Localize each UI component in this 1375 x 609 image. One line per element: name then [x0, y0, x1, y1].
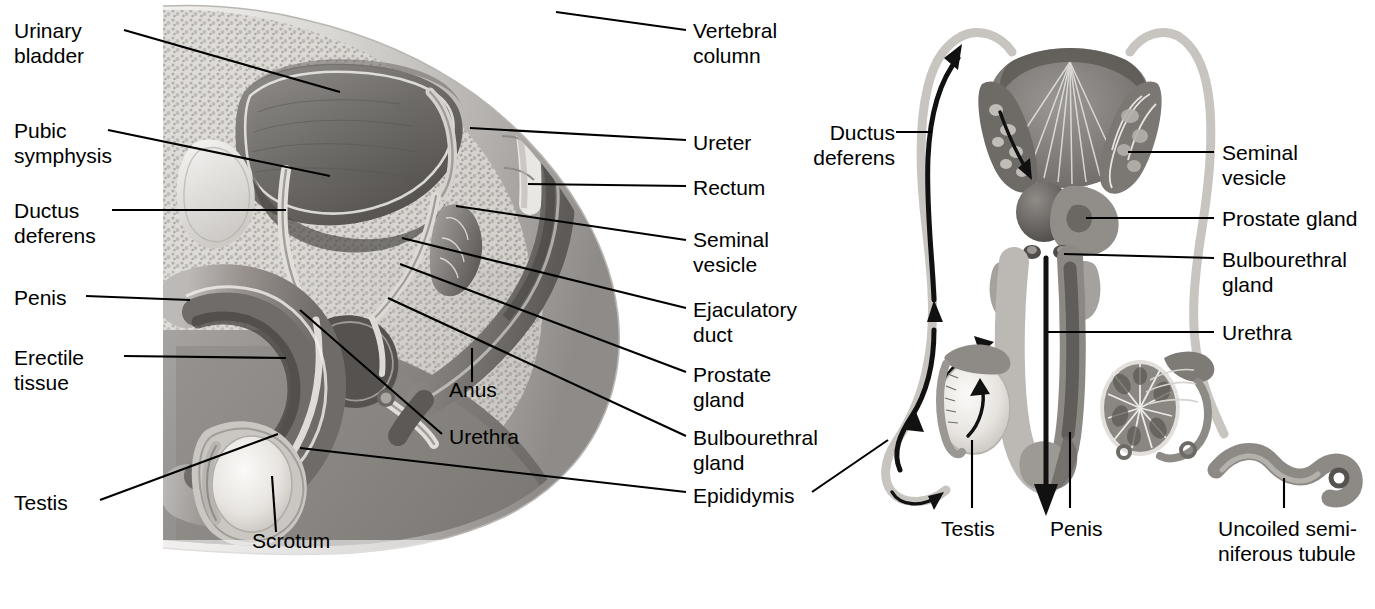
label-penis-posterior: Penis: [1050, 516, 1103, 541]
label-prostate-gland-left: Prostate gland: [693, 362, 771, 412]
label-epididymis: Epididymis: [693, 483, 795, 508]
label-ductus-deferens-posterior: Ductus deferens: [795, 120, 895, 170]
label-erectile-tissue: Erectile tissue: [14, 345, 84, 395]
label-testis-posterior: Testis: [941, 516, 995, 541]
label-ejaculatory-duct: Ejaculatory duct: [693, 297, 797, 347]
label-urethra-left: Urethra: [449, 424, 519, 449]
label-testis-sagittal: Testis: [14, 490, 68, 515]
label-uncoiled-seminiferous-tubule: Uncoiled semi- niferous tubule: [1218, 516, 1357, 566]
label-bulbourethral-gland-left: Bulbourethral gland: [693, 425, 818, 475]
label-ductus-deferens: Ductus deferens: [14, 198, 96, 248]
sagittal-illustration: [150, 4, 620, 564]
label-scrotum: Scrotum: [252, 528, 330, 553]
figure-canvas: Urinary bladder Pubic symphysis Ductus d…: [0, 0, 1375, 609]
label-urinary-bladder: Urinary bladder: [14, 18, 84, 68]
label-ureter: Ureter: [693, 130, 751, 155]
label-prostate-gland-right: Prostate gland: [1222, 206, 1357, 231]
label-penis: Penis: [14, 285, 67, 310]
anatomy-artwork: [0, 0, 1375, 609]
label-vertebral-column: Vertebral column: [693, 18, 777, 68]
label-bulbourethral-gland-right: Bulbourethral gland: [1222, 247, 1347, 297]
label-anus: Anus: [449, 377, 497, 402]
label-pubic-symphysis: Pubic symphysis: [14, 118, 112, 168]
label-seminal-vesicle-left: Seminal vesicle: [693, 227, 769, 277]
label-urethra-right: Urethra: [1222, 320, 1292, 345]
label-seminal-vesicle-right: Seminal vesicle: [1222, 140, 1298, 190]
label-rectum: Rectum: [693, 175, 765, 200]
